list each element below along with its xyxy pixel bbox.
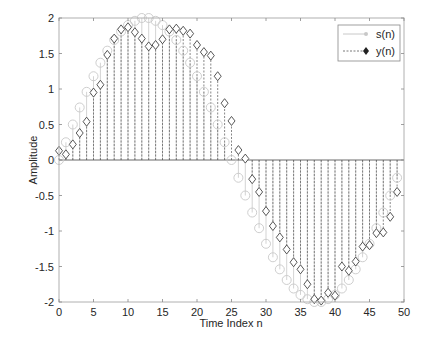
y-tick-label: -1.5: [35, 261, 54, 273]
x-tick-label: 40: [329, 306, 341, 318]
y-tick-label: -2: [44, 296, 54, 308]
x-axis-title: Time Index n: [199, 317, 262, 329]
y-axis-title: Amplitude: [27, 136, 39, 185]
x-tick-label: 5: [90, 306, 96, 318]
y-tick-label: 1.5: [39, 48, 54, 60]
y-tick-label: 0: [48, 154, 54, 166]
legend-s-label: s(n): [376, 28, 395, 40]
x-tick-label: 15: [156, 306, 168, 318]
x-tick-label: 50: [398, 306, 410, 318]
legend-s-marker-icon: [364, 32, 368, 36]
x-tick-label: 0: [56, 306, 62, 318]
legend: s(n) y(n): [338, 25, 400, 61]
y-tick-label: -0.5: [35, 190, 54, 202]
x-tick-label: 10: [122, 306, 134, 318]
stem-chart: 05101520253035404550 -2-1.5-1-0.500.511.…: [0, 0, 428, 342]
x-tick-label: 45: [363, 306, 375, 318]
y-tick-label: 1: [48, 83, 54, 95]
y-tick-label: 0.5: [39, 119, 54, 131]
x-tick-label: 35: [294, 306, 306, 318]
legend-y-label: y(n): [376, 45, 395, 57]
y-tick-label: 2: [48, 12, 54, 24]
y-tick-label: -1: [44, 225, 54, 237]
